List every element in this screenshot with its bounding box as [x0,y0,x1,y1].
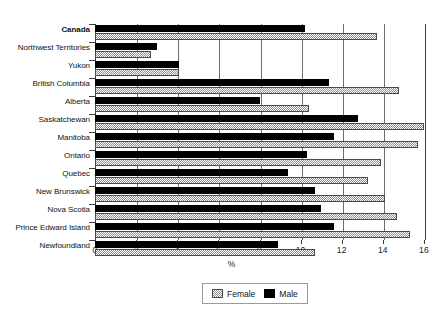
bar-female [95,105,309,112]
bar-male [95,223,334,230]
bar-female [95,177,368,184]
bar-female [95,51,151,58]
category-label: Northwest Territories [18,43,90,52]
legend-label-female: Female [227,289,255,299]
chart-row: Yukon [0,60,443,78]
bar-male [95,79,329,86]
chart-row: Prince Edward Island [0,222,443,240]
category-label: Alberta [65,97,90,106]
bar-female [95,159,381,166]
bar-male [95,115,358,122]
bar-male [95,205,321,212]
chart-row: Saskatchewan [0,114,443,132]
x-axis-title: % [0,259,443,269]
bar-female [95,87,399,94]
bar-female [95,33,377,40]
chart-row: Ontario [0,150,443,168]
chart-row: British Columbia [0,78,443,96]
legend-swatch-male-icon [264,289,275,298]
legend-swatch-female-icon [212,289,223,298]
x-axis-title-text: % [228,259,236,269]
category-label: Quebec [62,169,90,178]
chart-row: Northwest Territories [0,42,443,60]
chart-row: Canada [0,24,443,42]
category-label: Manitoba [57,133,90,142]
bar-male [95,133,334,140]
chart-row: Nova Scotia [0,204,443,222]
bar-female [95,141,418,148]
bar-female [95,195,385,202]
chart-row: Manitoba [0,132,443,150]
category-label: Prince Edward Island [15,223,90,232]
category-label: Saskatchewan [39,115,90,124]
bar-male [95,43,157,50]
bar-male [95,241,278,248]
legend-label-male: Male [279,289,297,299]
chart-row: Newfoundland [0,240,443,258]
bar-female [95,123,424,130]
bar-chart: 0246810121416 CanadaNorthwest Territorie… [0,0,443,315]
bar-male [95,61,179,68]
category-label: Canada [61,25,90,34]
chart-row: Quebec [0,168,443,186]
bar-female [95,249,315,256]
bar-male [95,169,288,176]
legend-item-female: Female [212,289,255,299]
bar-male [95,25,305,32]
bar-female [95,213,397,220]
category-label: Nova Scotia [47,205,90,214]
chart-legend: Female Male [202,283,308,304]
category-label: Yukon [68,61,90,70]
category-label: British Columbia [33,79,90,88]
bar-male [95,151,307,158]
chart-row: Alberta [0,96,443,114]
bar-male [95,97,260,104]
bar-female [95,69,179,76]
bar-male [95,187,315,194]
legend-item-male: Male [264,289,297,299]
category-label: Ontario [64,151,90,160]
category-label: New Brunswick [36,187,90,196]
chart-row: New Brunswick [0,186,443,204]
bar-female [95,231,410,238]
category-label: Newfoundland [39,241,90,250]
